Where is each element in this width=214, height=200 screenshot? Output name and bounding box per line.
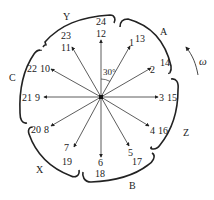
slot-label-19: 19: [62, 156, 72, 167]
slot-label-12: 12: [96, 28, 106, 39]
rotation-arrow-icon: [186, 47, 198, 75]
phase-label-b: B: [129, 180, 136, 191]
slot-label-11: 11: [61, 42, 71, 53]
phase-label-c: C: [9, 72, 16, 83]
slot-label-16: 16: [158, 125, 168, 136]
slot-label-2: 2: [150, 64, 155, 75]
slot-label-7: 7: [64, 142, 69, 153]
phase-label-a: A: [160, 26, 168, 37]
slot-label-8: 8: [44, 124, 49, 135]
slot-label-15: 15: [167, 92, 177, 103]
vector-5: [101, 97, 129, 146]
slot-label-3: 3: [159, 92, 164, 103]
vector-10: [51, 69, 101, 97]
slot-label-13: 13: [135, 33, 145, 44]
phase-belt-b: [83, 153, 154, 182]
slot-label-21: 21: [22, 92, 32, 103]
angle-label: 30°: [103, 67, 116, 77]
slot-label-23: 23: [61, 30, 71, 41]
phase-belt-c: [20, 50, 41, 123]
phase-label-y: Y: [63, 11, 70, 22]
slot-label-9: 9: [35, 92, 40, 103]
slot-label-6: 6: [98, 157, 103, 168]
slot-label-20: 20: [31, 124, 41, 135]
angle-arc: [101, 79, 110, 81]
slot-label-10: 10: [40, 63, 50, 74]
slot-star-diagram: 30° Y A Z B X C 24 12 1 13 2 14 3 15 4 1…: [0, 0, 214, 200]
slot-label-4: 4: [150, 125, 155, 136]
center-point: [99, 95, 103, 99]
diagram-canvas: 30° Y A Z B X C 24 12 1 13 2 14 3 15 4 1…: [0, 0, 214, 200]
slot-label-17: 17: [132, 156, 142, 167]
slot-label-18: 18: [95, 168, 105, 179]
slot-label-22: 22: [27, 63, 37, 74]
phase-label-x: X: [36, 164, 44, 175]
phase-label-z: Z: [183, 127, 189, 138]
vector-4: [101, 97, 149, 126]
slot-label-14: 14: [160, 57, 170, 68]
emf-vectors: [44, 40, 158, 157]
phase-belt-z: [151, 79, 178, 149]
slot-label-24: 24: [96, 16, 106, 27]
slot-label-1: 1: [129, 37, 134, 48]
vector-11: [72, 47, 101, 97]
omega-label: ω: [199, 55, 207, 67]
